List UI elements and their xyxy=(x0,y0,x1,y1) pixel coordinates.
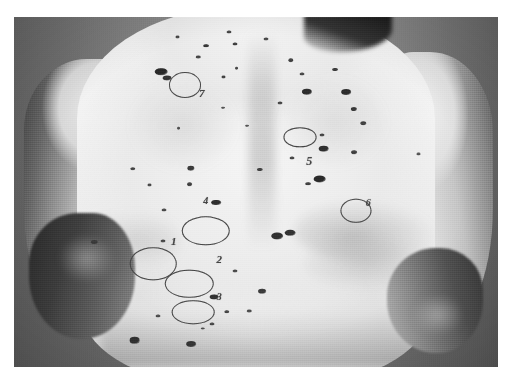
nevus-spot xyxy=(285,229,296,235)
nevus-spot xyxy=(211,200,221,206)
nevus-spot xyxy=(203,44,209,48)
nevus-spot xyxy=(156,314,161,317)
nevus-spot xyxy=(416,152,421,155)
nevus-spot xyxy=(314,176,327,183)
nevus-spot xyxy=(196,55,200,58)
nevus-spot xyxy=(258,289,266,294)
nevus-spot xyxy=(320,134,325,137)
nevus-spot xyxy=(226,30,231,33)
nevus-spot xyxy=(175,36,180,39)
nevus-spot xyxy=(305,182,311,186)
marker-number-3: 3 xyxy=(217,292,222,302)
nevus-spot xyxy=(91,240,97,244)
nevus-spot xyxy=(162,209,167,212)
nevus-spot xyxy=(147,183,152,186)
nevus-spot xyxy=(361,122,366,126)
nevus-spot xyxy=(224,310,229,314)
spine-shadow xyxy=(249,31,276,248)
nevus-spot xyxy=(188,166,195,171)
right-scapula-shading xyxy=(280,77,386,168)
nevus-spot xyxy=(186,341,196,347)
nevus-spot xyxy=(210,323,215,326)
nevus-spot xyxy=(341,89,351,95)
marker-number-5: 5 xyxy=(306,155,312,167)
nevus-spot xyxy=(332,68,338,72)
nevus-spot xyxy=(161,239,166,242)
nevus-spot xyxy=(351,107,357,111)
right-elbow-highlight xyxy=(411,294,464,336)
nevus-spot xyxy=(232,42,237,45)
nevus-spot xyxy=(187,183,193,187)
marker-number-6: 6 xyxy=(366,198,371,208)
nevus-spot xyxy=(351,150,357,154)
nevus-spot xyxy=(318,145,329,152)
left-elbow-highlight xyxy=(58,234,116,283)
waistline-shadow xyxy=(101,311,420,367)
nevus-spot xyxy=(288,59,293,63)
clinical-photograph: 1234567 xyxy=(14,17,498,367)
marker-circle-3 xyxy=(172,301,215,325)
marker-circle-7 xyxy=(169,72,201,98)
nevus-spot xyxy=(221,75,226,78)
marker-circle-5 xyxy=(283,128,316,148)
nevus-spot xyxy=(289,156,294,159)
nevus-spot xyxy=(300,72,305,75)
nevus-spot xyxy=(201,327,205,330)
nevus-spot xyxy=(278,102,283,105)
nevus-spot xyxy=(232,270,237,273)
nevus-spot xyxy=(129,337,140,343)
nevus-spot xyxy=(271,233,283,240)
marker-number-7: 7 xyxy=(199,87,205,98)
marker-number-2: 2 xyxy=(216,254,222,265)
nevus-spot xyxy=(130,167,135,171)
marker-circle-2 xyxy=(165,269,213,298)
nevus-spot xyxy=(257,168,263,172)
photograph-page: 1234567 xyxy=(0,0,517,380)
nevus-spot xyxy=(263,37,268,40)
marker-number-1: 1 xyxy=(171,236,177,247)
marker-number-4: 4 xyxy=(203,196,208,206)
nevus-spot xyxy=(247,310,251,313)
